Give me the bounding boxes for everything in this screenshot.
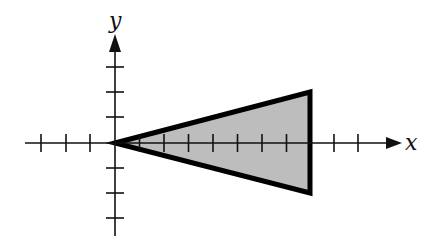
y-axis-label: y [108,8,122,33]
coordinate-plane: x y [0,0,433,250]
y-axis-arrow-icon [109,34,121,52]
x-axis-label: x [405,130,418,155]
x-axis-arrow-icon [386,137,402,149]
